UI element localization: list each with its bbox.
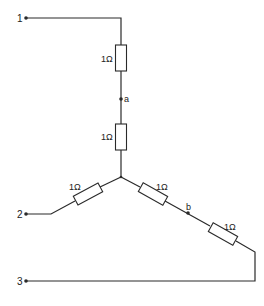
terminal-3-label: 3 bbox=[17, 276, 23, 287]
resistor-r1-label: 1Ω bbox=[101, 54, 113, 64]
resistor-r1-body bbox=[116, 45, 127, 71]
resistor-r5-label: 1Ω bbox=[224, 222, 236, 232]
node-a-label: a bbox=[124, 94, 129, 104]
wire-terminal-1 bbox=[26, 18, 121, 177]
terminal-1-dot bbox=[24, 16, 28, 20]
node-a-dot bbox=[119, 97, 123, 101]
resistor-r3-label: 1Ω bbox=[69, 182, 81, 192]
terminal-3-dot bbox=[24, 279, 28, 283]
circuit-diagram: 1 1Ω a 1Ω 2 1Ω 1Ω b bbox=[0, 0, 264, 306]
terminal-2: 2 bbox=[17, 209, 28, 220]
resistor-r2-label: 1Ω bbox=[101, 132, 113, 142]
resistor-r1: 1Ω bbox=[101, 45, 127, 71]
terminal-2-dot bbox=[24, 212, 28, 216]
node-b: b bbox=[186, 202, 191, 215]
node-b-label: b bbox=[186, 202, 191, 212]
resistor-r2: 1Ω bbox=[101, 124, 127, 150]
resistor-r4-label: 1Ω bbox=[156, 182, 168, 192]
resistor-r2-body bbox=[116, 124, 127, 150]
terminal-1-label: 1 bbox=[17, 13, 23, 24]
terminal-2-label: 2 bbox=[17, 209, 23, 220]
terminal-3: 3 bbox=[17, 276, 28, 287]
terminal-1: 1 bbox=[17, 13, 28, 24]
